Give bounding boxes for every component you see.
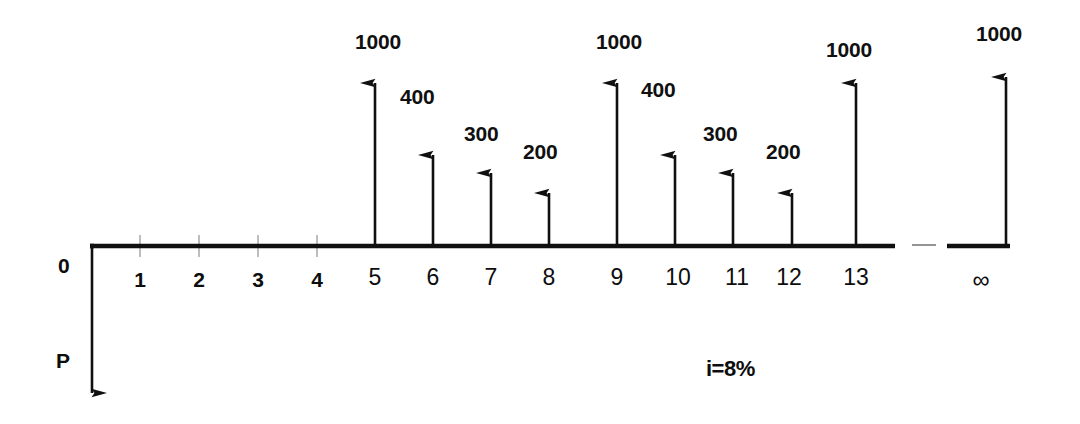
period-label-6: 6 <box>427 264 440 291</box>
period-label-12: 12 <box>776 264 802 291</box>
present-worth-arrow <box>90 246 94 393</box>
period-label-10: 10 <box>665 264 691 291</box>
cash-flow-value-label-period-12: 200 <box>766 140 800 164</box>
origin-label: 0 <box>58 254 70 278</box>
period-label-7: 7 <box>485 264 498 291</box>
period-label-1: 1 <box>134 268 146 292</box>
cash-flow-value-label-period-9: 1000 <box>596 30 642 54</box>
cash-flow-value-label-period-13: 1000 <box>826 38 872 62</box>
period-label-5: 5 <box>369 264 382 291</box>
period-label-4: 4 <box>311 268 323 292</box>
period-label-8: 8 <box>543 264 556 291</box>
cash-flow-diagram-canvas: 0 P ∞ i=8% 12345678910111213 10004003002… <box>0 0 1080 424</box>
cash-flow-value-label-period-∞: 1000 <box>976 22 1022 46</box>
period-label-9: 9 <box>611 264 624 291</box>
period-label-2: 2 <box>193 268 205 292</box>
cash-flow-arrows <box>375 77 1006 246</box>
cash-flow-diagram-svg <box>0 0 1080 424</box>
cash-flow-value-label-period-7: 300 <box>464 122 498 146</box>
period-label-13: 13 <box>843 264 869 291</box>
cash-flow-value-label-period-8: 200 <box>523 140 557 164</box>
cash-flow-value-label-period-5: 1000 <box>355 30 401 54</box>
cash-flow-value-label-period-6: 400 <box>400 85 434 109</box>
cash-flow-value-label-period-11: 300 <box>703 122 737 146</box>
cash-flow-value-label-period-10: 400 <box>641 78 675 102</box>
period-label-11: 11 <box>725 264 749 291</box>
period-label-3: 3 <box>252 268 264 292</box>
present-worth-label: P <box>56 349 70 373</box>
interest-rate-label: i=8% <box>706 356 755 382</box>
infinity-period-label: ∞ <box>972 266 989 294</box>
